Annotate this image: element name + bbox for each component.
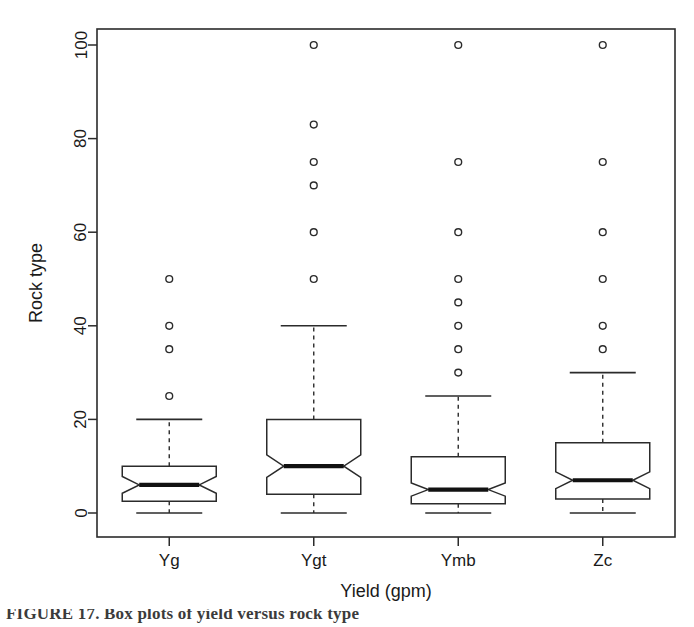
outlier-point bbox=[455, 369, 462, 376]
outlier-point bbox=[455, 42, 462, 49]
outlier-point bbox=[455, 229, 462, 236]
outlier-point bbox=[455, 299, 462, 306]
outlier-point bbox=[310, 229, 317, 236]
boxplot-ymb bbox=[411, 42, 505, 513]
box-body bbox=[411, 457, 505, 504]
y-axis-tick-label: 0 bbox=[72, 508, 91, 517]
outlier-point bbox=[455, 346, 462, 353]
outlier-point bbox=[310, 159, 317, 166]
outlier-point bbox=[599, 346, 606, 353]
outlier-point bbox=[310, 42, 317, 49]
figure-caption: FIGURE 17. Box plots of yield versus roc… bbox=[0, 609, 694, 627]
box-body bbox=[267, 419, 361, 494]
outlier-point bbox=[599, 42, 606, 49]
outlier-point bbox=[455, 276, 462, 283]
x-axis-tick-label-yg: Yg bbox=[159, 551, 180, 570]
outlier-point bbox=[166, 322, 173, 329]
outlier-point bbox=[310, 182, 317, 189]
boxplot-yg bbox=[122, 276, 216, 513]
outlier-point bbox=[599, 322, 606, 329]
outlier-point bbox=[166, 393, 173, 400]
outlier-point bbox=[599, 159, 606, 166]
outlier-point bbox=[166, 276, 173, 283]
y-axis-tick-label: 60 bbox=[72, 223, 91, 242]
y-axis-tick-label: 20 bbox=[72, 410, 91, 429]
y-axis-tick-label: 40 bbox=[72, 316, 91, 335]
outlier-point bbox=[599, 229, 606, 236]
outlier-point bbox=[166, 346, 173, 353]
boxplot-ygt bbox=[267, 42, 361, 513]
outlier-point bbox=[310, 121, 317, 128]
x-axis-tick-label-ygt: Ygt bbox=[301, 551, 327, 570]
y-axis-tick-label: 100 bbox=[72, 31, 91, 59]
x-axis-tick-label-zc: Zc bbox=[593, 551, 612, 570]
outlier-point bbox=[455, 159, 462, 166]
outlier-point bbox=[310, 276, 317, 283]
y-axis-tick-label: 80 bbox=[72, 129, 91, 148]
y-axis-title: Rock type bbox=[26, 243, 46, 323]
boxplot-chart: 020406080100Rock typeYgYgtYmbZcYield (gp… bbox=[0, 0, 694, 627]
x-axis-tick-label-ymb: Ymb bbox=[441, 551, 476, 570]
outlier-point bbox=[599, 276, 606, 283]
figure-container: 020406080100Rock typeYgYgtYmbZcYield (gp… bbox=[0, 0, 694, 627]
box-body bbox=[556, 443, 650, 499]
outlier-point bbox=[455, 322, 462, 329]
boxplot-zc bbox=[556, 42, 650, 513]
x-axis-title: Yield (gpm) bbox=[340, 581, 431, 601]
figure-caption-text: FIGURE 17. Box plots of yield versus roc… bbox=[6, 609, 359, 624]
